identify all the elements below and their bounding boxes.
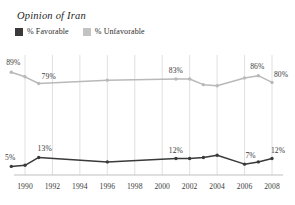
data-value-label: 79%	[42, 72, 56, 81]
data-point	[37, 82, 40, 85]
data-point	[270, 157, 273, 160]
data-point	[174, 157, 177, 160]
data-value-label: 13%	[38, 144, 52, 153]
x-tick-label: 2006	[237, 182, 253, 191]
chart-figure: Opinion of Iran % Favorable % Unfavorabl…	[0, 0, 295, 205]
data-value-label: 7%	[245, 151, 255, 160]
data-value-label: 12%	[169, 146, 183, 155]
data-point	[257, 74, 260, 77]
data-point	[174, 77, 177, 80]
data-point	[188, 157, 191, 160]
x-tick-label: 2008	[264, 182, 280, 191]
data-value-label: 86%	[250, 62, 264, 71]
x-tick-label: 2000	[154, 182, 170, 191]
x-tick-label: 1990	[17, 182, 33, 191]
data-point	[106, 78, 109, 81]
plot-area	[0, 0, 295, 205]
data-point	[243, 76, 246, 79]
series-points	[10, 71, 274, 168]
x-tick-label: 2002	[182, 182, 198, 191]
x-tick-label: 2004	[209, 182, 225, 191]
data-point	[215, 154, 218, 157]
data-value-label: 83%	[169, 66, 183, 75]
gridlines	[25, 55, 272, 175]
data-point	[23, 164, 26, 167]
data-value-label: 12%	[271, 146, 285, 155]
x-tick-label: 1996	[100, 182, 116, 191]
data-point	[23, 75, 26, 78]
data-point	[202, 156, 205, 159]
data-point	[270, 81, 273, 84]
data-value-label: 5%	[5, 153, 15, 162]
data-point	[215, 84, 218, 87]
data-point	[37, 156, 40, 159]
x-tick-label: 1994	[72, 182, 88, 191]
data-value-label: 80%	[274, 70, 288, 79]
data-value-label: 89%	[6, 58, 20, 67]
data-point	[202, 83, 205, 86]
series-line	[11, 155, 272, 166]
x-tick-label: 1992	[45, 182, 61, 191]
x-tick-label: 1998	[127, 182, 143, 191]
data-point	[188, 77, 191, 80]
data-point	[243, 162, 246, 165]
data-point	[257, 160, 260, 163]
data-point	[10, 71, 13, 74]
data-point	[106, 160, 109, 163]
data-point	[10, 165, 13, 168]
